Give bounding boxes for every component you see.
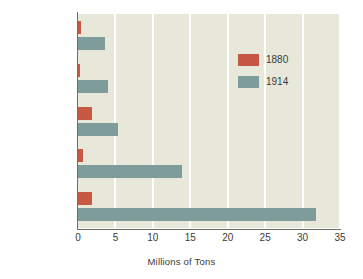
bar-great-britain-1880 [78,107,92,120]
x-axis-title: Millions of Tons [0,256,363,267]
gridline [339,14,341,228]
bar-united-states-1880 [78,192,92,205]
legend-swatch-1880-icon [238,54,259,66]
legend: 1880 1914 [238,51,288,95]
x-axis-line [77,229,341,230]
bar-russia-1914 [78,80,108,93]
bar-france-1914 [78,37,105,50]
x-tick-label: 10 [138,232,168,243]
bar-russia-1880 [78,64,80,77]
gridline [152,14,154,228]
legend-label-1914: 1914 [266,76,288,87]
x-tick-label: 35 [325,232,355,243]
x-tick-label: 15 [175,232,205,243]
legend-item-1880[interactable]: 1880 [238,51,288,68]
bar-united-states-1914 [78,208,316,221]
x-tick-label: 30 [288,232,318,243]
x-tick-label: 20 [213,232,243,243]
bar-germany-1914 [78,165,182,178]
steel-production-bar-chart: FranceRussiaGreat BritainGermanyUnited S… [0,0,363,279]
legend-item-1914[interactable]: 1914 [238,73,288,90]
legend-swatch-1914-icon [238,76,259,88]
x-tick-label: 0 [63,232,93,243]
gridline [302,14,304,228]
gridline [189,14,191,228]
gridline [264,14,266,228]
bar-germany-1880 [78,149,83,162]
gridline [114,14,116,228]
bar-france-1880 [78,21,81,34]
x-tick-label: 5 [100,232,130,243]
legend-label-1880: 1880 [266,54,288,65]
bar-great-britain-1914 [78,123,118,136]
gridline [227,14,229,228]
x-tick-label: 25 [250,232,280,243]
